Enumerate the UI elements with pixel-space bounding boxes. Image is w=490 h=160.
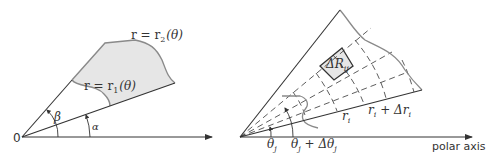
outer-curve-label: r = r2(θ)	[131, 28, 183, 44]
origin-label: 0	[13, 131, 21, 145]
theta-j-plus-arc	[285, 108, 293, 137]
r-i-plus-delta-label: ri + Δri	[368, 103, 411, 119]
polar-region-diagram: 0 β α r = r1(θ) r = r2(θ)	[0, 0, 490, 160]
theta-j-plus-delta-label: θj + Δθj	[291, 137, 337, 153]
polar-axis-label: polar axis	[432, 140, 486, 153]
right-figure: ΔRij ri ri + Δri θj θj + Δθj polar axis	[240, 10, 486, 153]
beta-label: β	[53, 110, 61, 124]
shaded-region	[72, 40, 175, 106]
outer-boundary-curve	[340, 10, 422, 90]
inner-curve-label: r = r1(θ)	[84, 79, 136, 95]
alpha-angle-arc	[86, 115, 90, 137]
theta-j-label: θj	[267, 137, 277, 153]
r-i-label: ri	[342, 109, 351, 125]
alpha-label: α	[92, 121, 99, 132]
left-figure: 0 β α r = r1(θ) r = r2(θ)	[13, 28, 212, 145]
dashed-radial-lines	[240, 28, 408, 137]
